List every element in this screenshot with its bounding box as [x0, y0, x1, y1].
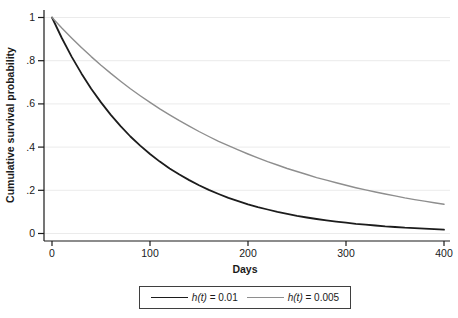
survival-curve-2	[52, 18, 444, 205]
survival-curve-1	[52, 18, 444, 230]
legend-line-sample-h001	[151, 297, 188, 298]
legend-label-h0005: h(t) = 0.005	[288, 293, 339, 303]
plot-area: 0.2.4.6.810100200300400 Days Cumulative …	[0, 0, 458, 318]
y-tick-label: .8	[26, 54, 35, 66]
x-tick-label: 100	[141, 247, 159, 259]
x-tick-label: 0	[49, 247, 55, 259]
legend-item-h001: h(t) = 0.01	[151, 293, 238, 303]
y-tick-label: .4	[26, 141, 35, 153]
y-tick-label: .2	[26, 184, 35, 196]
curves-layer	[52, 18, 444, 230]
legend-item-h0005: h(t) = 0.005	[247, 293, 339, 303]
y-tick-label: 0	[29, 227, 35, 239]
x-axis-title: Days	[232, 263, 257, 275]
survival-probability-chart: 0.2.4.6.810100200300400 Days Cumulative …	[0, 0, 458, 318]
x-tick-label: 300	[337, 247, 355, 259]
gridlines-layer	[44, 18, 450, 234]
x-tick-label: 400	[435, 247, 453, 259]
y-tick-label: .6	[26, 97, 35, 109]
y-axis-title: Cumulative survival probability	[4, 47, 16, 203]
legend: h(t) = 0.01 h(t) = 0.005	[139, 286, 351, 309]
y-tick-label: 1	[29, 11, 35, 23]
legend-line-sample-h0005	[247, 297, 284, 298]
x-tick-label: 200	[239, 247, 257, 259]
axes-layer: 0.2.4.6.810100200300400	[26, 10, 453, 259]
legend-label-h001: h(t) = 0.01	[192, 293, 238, 303]
